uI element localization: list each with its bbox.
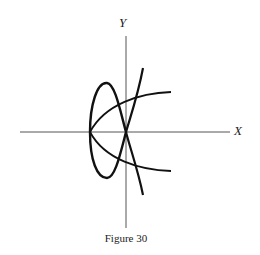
figure-canvas (0, 0, 260, 255)
closed-loop-curve (90, 83, 126, 178)
x-axis-label: X (234, 123, 242, 139)
y-axis-label: Y (119, 15, 126, 31)
figure-caption: Figure 30 (0, 232, 252, 244)
